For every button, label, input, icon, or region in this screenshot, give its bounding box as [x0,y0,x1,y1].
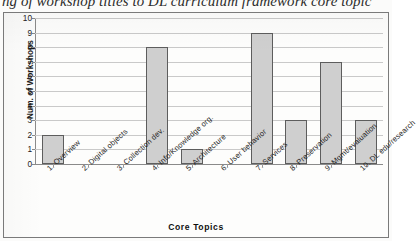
x-axis-title: Core Topics [4,222,388,232]
y-tick-mark [32,106,35,107]
y-tick-label: 10 [23,13,32,23]
y-tick-mark [32,91,35,92]
y-tick-label: 9 [27,28,32,38]
figure-caption-strip: ng of workshop titles to DL curriculum f… [0,0,392,12]
bar-slot [36,18,71,164]
y-tick-mark [32,33,35,34]
y-tick-label: 8 [27,42,32,52]
y-tick-label: 0 [27,159,32,169]
y-tick-mark [32,135,35,136]
y-tick-label: 3 [27,115,32,125]
y-tick-label: 4 [27,101,32,111]
y-tick-label: 1 [27,144,32,154]
y-tick-mark [32,62,35,63]
y-tick-label: 6 [27,71,32,81]
x-axis-category-labels: 1. Overview2. Digital objects3. Collecti… [35,166,383,226]
y-tick-mark [32,120,35,121]
y-tick-mark [32,164,35,165]
bar [320,62,342,164]
y-tick-mark [32,76,35,77]
y-tick-mark [32,149,35,150]
y-tick-label: 7 [27,57,32,67]
y-tick-label: 2 [27,130,32,140]
y-tick-label: 5 [27,86,32,96]
y-tick-mark [32,47,35,48]
y-tick-mark [32,18,35,19]
figure-caption: ng of workshop titles to DL curriculum f… [2,0,371,10]
chart-frame: Num. of Workshops 012345678910 1. Overvi… [3,12,389,238]
